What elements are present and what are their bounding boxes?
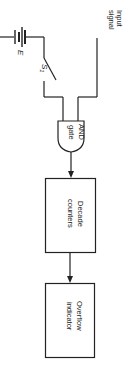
battery-label: E: [16, 50, 25, 56]
overflow-indicator-label-line1: Overflow: [75, 301, 84, 331]
decade-counters-label-line1: Decade: [76, 201, 85, 227]
gate-label-line1: AND: [77, 124, 86, 140]
input-signal-label-line2: signal: [107, 10, 116, 30]
decade-counters-label-line2: counters: [66, 199, 75, 228]
arrow-gate-to-counters: [68, 152, 74, 178]
gate-label-line2: gate: [67, 125, 76, 140]
block-diagram: E S1 Input signal AND gate Decade counte…: [0, 0, 123, 380]
arrow-counters-to-overflow: [67, 252, 73, 283]
input-signal-wire: [78, 38, 97, 121]
battery-circuit: [0, 27, 63, 121]
overflow-indicator-label-line2: indicator: [65, 302, 74, 331]
switch-label: S1: [39, 64, 49, 73]
